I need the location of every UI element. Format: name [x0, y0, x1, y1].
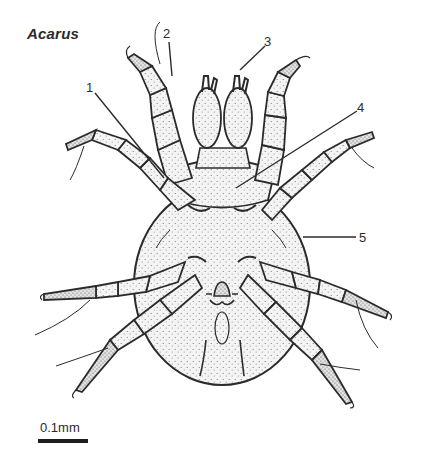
scale-bar [38, 439, 88, 443]
leg-1-right [255, 56, 310, 185]
mite-illustration [0, 0, 421, 458]
label-5: 5 [359, 230, 366, 245]
chelicerae [193, 76, 252, 148]
label-3: 3 [264, 34, 271, 49]
label-1: 1 [86, 80, 93, 95]
scale-bar-label: 0.1mm [40, 420, 80, 435]
label-2: 2 [163, 26, 170, 41]
label-4: 4 [357, 100, 364, 115]
